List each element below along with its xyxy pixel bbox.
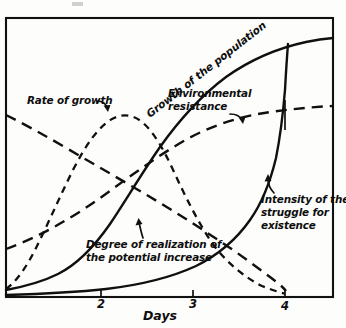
leader-arrowhead-degree-of-realization xyxy=(136,218,143,226)
label-environmental-resistance-line2: resistance xyxy=(168,100,227,112)
label-rate-of-growth: Rate of growth xyxy=(27,94,113,106)
label-intensity-line2: struggle for xyxy=(261,206,330,218)
label-environmental-resistance-line1: Environmental xyxy=(168,87,252,99)
curve-rate-of-growth xyxy=(6,115,285,293)
curve-degree-of-realization xyxy=(6,115,286,291)
label-degree-of-realization-line1: Degree of realization of xyxy=(86,238,223,250)
xtick-label-3: 3 xyxy=(189,297,197,311)
leader-arrowhead-environmental-resistance xyxy=(239,117,246,124)
xtick-label-2: 2 xyxy=(97,297,105,311)
leader-arrowhead-rate-of-growth xyxy=(104,105,111,112)
xtick-label-4: 4 xyxy=(280,299,289,313)
figure-container: Rate of growth Growth of the population … xyxy=(0,0,346,328)
label-intensity-line1: Intensity of the xyxy=(261,193,346,205)
xaxis-title: Days xyxy=(143,308,177,323)
label-degree-of-realization-line2: the potential increase xyxy=(86,251,212,263)
label-intensity-line3: existence xyxy=(261,219,316,231)
chart-svg: Rate of growth Growth of the population … xyxy=(0,0,346,328)
